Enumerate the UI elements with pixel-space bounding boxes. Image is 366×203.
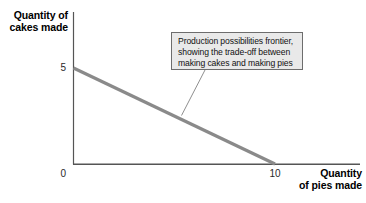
ppf-chart-figure: Quantity of cakes made Quantity of pies …: [0, 0, 366, 203]
y-axis-title: Quantity of cakes made: [0, 9, 68, 33]
axis-origin-label: 0: [44, 168, 66, 180]
callout-text-line3: making cakes and making pies: [178, 58, 297, 69]
y-axis-title-line1: Quantity of: [14, 9, 68, 21]
x-axis-title: Quantity of pies made: [236, 167, 362, 191]
x-axis-tick-10: 10: [263, 168, 287, 180]
callout-leader-line: [182, 70, 206, 116]
callout-annotation-box: Production possibilities frontier, showi…: [171, 32, 303, 70]
y-axis-title-line2: cakes made: [9, 21, 68, 33]
x-axis-title-line1: Quantity: [320, 167, 362, 179]
y-axis-tick-5: 5: [44, 62, 66, 74]
ppf-line: [74, 68, 276, 164]
callout-text-line1: Production possibilities frontier,: [178, 36, 297, 47]
x-axis-title-line2: of pies made: [299, 179, 362, 191]
callout-text-line2: showing the trade-off between: [178, 47, 297, 58]
